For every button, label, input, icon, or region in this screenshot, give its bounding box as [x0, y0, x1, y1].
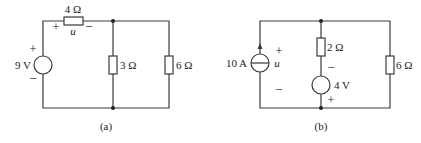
- arrow-up-icon: [258, 43, 263, 49]
- label-6ohm-b: 6 Ω: [396, 59, 412, 71]
- caption-a: (a): [100, 120, 113, 133]
- resistor-6ohm-b-icon: [386, 56, 394, 74]
- caption-b: (b): [315, 120, 328, 133]
- voltage-source-9v-icon: [34, 56, 52, 74]
- sign-minus-4v: −: [327, 60, 334, 75]
- sign-minus-u-b: −: [275, 82, 282, 97]
- wire-a-top-right: [83, 21, 169, 56]
- label-u-b: u: [274, 57, 280, 69]
- sign-plus-4v: +: [327, 92, 334, 107]
- sign-minus-9v: −: [29, 71, 36, 86]
- sign-plus-u-b: +: [275, 43, 282, 58]
- resistor-2ohm-icon: [317, 38, 325, 56]
- sign-plus-4ohm: +: [52, 19, 59, 34]
- wire-a-bottom: [43, 74, 169, 108]
- label-2ohm: 2 Ω: [327, 41, 343, 53]
- sign-plus-9v: +: [29, 41, 36, 56]
- junction-dot: [319, 19, 323, 23]
- resistor-3ohm-icon: [109, 56, 117, 74]
- label-u-a: u: [70, 25, 76, 37]
- label-10a: 10 A: [226, 57, 247, 69]
- label-3ohm: 3 Ω: [120, 59, 136, 71]
- label-4ohm: 4 Ω: [65, 3, 81, 15]
- label-6ohm-a: 6 Ω: [176, 59, 192, 71]
- sign-minus-4ohm: −: [85, 19, 92, 34]
- label-4v: 4 V: [334, 79, 350, 91]
- label-9v: 9 V: [15, 59, 31, 71]
- circuit-a: 4 Ω u + − + − 9 V 3 Ω 6 Ω (a): [15, 3, 192, 133]
- junction-dot: [319, 106, 323, 110]
- circuit-b: 10 A + u − 2 Ω − 4 V + 6 Ω (b): [226, 19, 413, 133]
- resistor-6ohm-a-icon: [165, 56, 173, 74]
- junction-dot: [111, 19, 115, 23]
- circuit-diagram: 4 Ω u + − + − 9 V 3 Ω 6 Ω (a) 10 A + u: [0, 0, 421, 143]
- junction-dot: [111, 106, 115, 110]
- resistor-4ohm-icon: [64, 17, 83, 25]
